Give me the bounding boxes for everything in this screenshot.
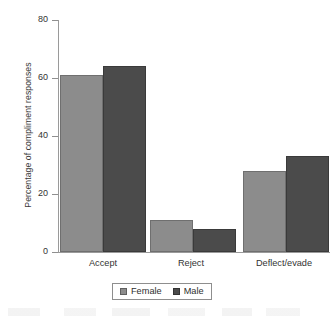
chart-legend: Female Male: [112, 283, 212, 300]
bar-reject-female: [150, 220, 193, 252]
y-tick-label-40: 40: [14, 130, 48, 140]
y-tick-label-20: 20: [14, 188, 48, 198]
y-tick-40: [52, 136, 58, 137]
x-tick-label-deflect-evade: Deflect/evade: [239, 258, 329, 268]
y-tick-label-80: 80: [14, 14, 48, 24]
bar-reject-male: [193, 229, 236, 252]
y-tick-label-0: 0: [14, 246, 48, 256]
y-tick-60: [52, 78, 58, 79]
bar-deflect-evade-female: [243, 171, 286, 252]
bar-accept-male: [103, 66, 146, 252]
bar-accept-female: [60, 75, 103, 252]
y-tick-label-60: 60: [14, 72, 48, 82]
y-axis-line: [58, 20, 59, 252]
y-tick-80: [52, 20, 58, 21]
legend-item-female: Female: [120, 286, 162, 296]
scan-artifact: [0, 308, 332, 316]
x-tick-label-reject: Reject: [148, 258, 234, 268]
bar-chart-figure: Percentage of compliment responses 0 20 …: [0, 0, 332, 316]
legend-label-male: Male: [184, 286, 204, 296]
x-tick-label-accept: Accept: [60, 258, 146, 268]
bar-deflect-evade-male: [286, 156, 329, 252]
y-tick-20: [52, 194, 58, 195]
legend-label-female: Female: [131, 286, 162, 296]
legend-swatch-male-icon: [173, 288, 180, 295]
legend-swatch-female-icon: [120, 288, 127, 295]
x-axis-line: [58, 252, 330, 253]
legend-item-male: Male: [173, 286, 204, 296]
